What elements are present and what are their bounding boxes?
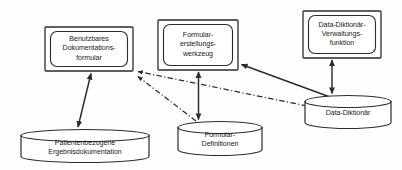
node-inner-frame: [164, 25, 233, 66]
cylinder-top: [178, 122, 262, 134]
connector-diktionaer-to-dokumentationsformular[interactable]: [138, 72, 307, 107]
node-inner-frame: [51, 32, 128, 67]
node-formular-erstellungswerkzeug[interactable]: [158, 20, 238, 70]
node-patientenbezogene-ergebnisdokumentation[interactable]: [21, 130, 149, 163]
node-data-diktionaer-verwaltungsfunktion[interactable]: [303, 11, 381, 58]
connector-form-to-patientendaten[interactable]: [78, 74, 91, 128]
diagram-canvas: Benutzbares Dokumentations- formular For…: [0, 0, 402, 170]
node-formular-definitionen[interactable]: [178, 122, 262, 156]
connector-diktionaer-to-werkzeug[interactable]: [242, 65, 331, 98]
cylinder-top: [21, 130, 149, 142]
node-data-diktionaer[interactable]: [305, 96, 391, 129]
connector-formulardefinitionen-to-dokumentationsformular[interactable]: [138, 77, 196, 122]
node-benutzbares-dokumentationsformular[interactable]: [45, 27, 133, 71]
node-inner-frame: [309, 16, 376, 54]
cylinder-top: [305, 96, 391, 108]
diagram-graphics: [0, 0, 402, 170]
